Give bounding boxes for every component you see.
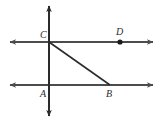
point-label-c: C [40, 29, 47, 40]
geometry-diagram: C D A B [0, 0, 163, 122]
point-label-d: D [115, 26, 124, 37]
point-label-b: B [106, 88, 112, 99]
point-label-a: A [39, 88, 47, 99]
diagram-svg: C D A B [0, 0, 163, 122]
point-d-dot [117, 39, 122, 44]
segment-cb [49, 42, 110, 85]
